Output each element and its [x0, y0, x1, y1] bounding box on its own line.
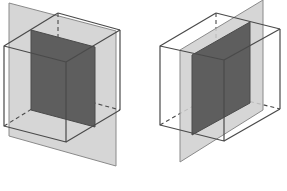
left-cross-section: [31, 30, 95, 127]
left-figure: [4, 3, 120, 166]
right-figure: [160, 0, 280, 162]
diagram-canvas: [0, 0, 287, 191]
cube-sections-svg: [0, 0, 287, 191]
